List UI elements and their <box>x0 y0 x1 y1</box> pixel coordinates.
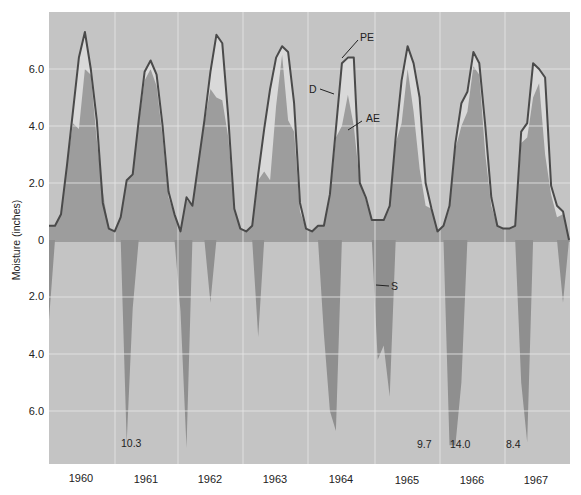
surplus-value-10-3: 10.3 <box>121 437 142 449</box>
y-tick-upper-2: 2.0 <box>29 177 44 189</box>
water-balance-chart: 6.0 4.0 2.0 0 2.0 4.0 6.0 Moisture (inch… <box>0 0 581 495</box>
d-label: D <box>309 83 317 95</box>
y-tick-upper-6: 6.0 <box>29 63 44 75</box>
x-tick-1961: 1961 <box>134 473 158 485</box>
surplus-value-14-0: 14.0 <box>450 438 471 450</box>
s-label: S <box>391 280 398 292</box>
y-tick-lower-6: 6.0 <box>29 405 44 417</box>
y-axis: 6.0 4.0 2.0 0 2.0 4.0 6.0 Moisture (inch… <box>10 63 44 417</box>
y-tick-lower-2: 2.0 <box>29 290 44 302</box>
x-axis: 1960 1961 1962 1963 1964 1965 1966 1967 <box>69 472 548 486</box>
x-tick-1960: 1960 <box>69 472 93 484</box>
x-tick-1962: 1962 <box>198 473 222 485</box>
y-tick-upper-4: 4.0 <box>29 120 44 132</box>
y-axis-label: Moisture (inches) <box>10 200 22 281</box>
x-tick-1967: 1967 <box>524 474 548 486</box>
y-tick-lower-4: 4.0 <box>29 348 44 360</box>
y-tick-zero: 0 <box>38 234 44 246</box>
surplus-value-8-4: 8.4 <box>506 438 521 450</box>
x-tick-1966: 1966 <box>460 474 484 486</box>
x-tick-1964: 1964 <box>329 473 353 485</box>
ae-label: AE <box>366 112 380 124</box>
pe-label: PE <box>360 31 374 43</box>
surplus-value-9-7: 9.7 <box>417 438 432 450</box>
x-tick-1965: 1965 <box>395 474 419 486</box>
x-tick-1963: 1963 <box>263 473 287 485</box>
